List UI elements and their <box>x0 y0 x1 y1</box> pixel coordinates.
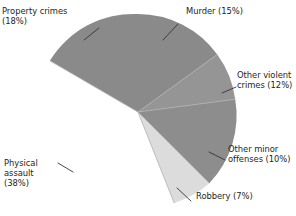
pie-slice-property-crimes[interactable] <box>50 14 138 112</box>
slice-label-murder: Murder (15%) <box>186 6 290 16</box>
slice-label-other-violent-crimes: Other violent crimes (12%) <box>237 70 295 90</box>
slice-label-other-minor-offenses: Other minor offenses (10%) <box>228 144 294 164</box>
slice-label-robbery: Robbery (7%) <box>196 191 292 201</box>
slice-label-property-crimes: Property crimes (18%) <box>2 6 94 26</box>
pie-chart: Property crimes (18%) Murder (15%) Other… <box>0 0 296 216</box>
slice-label-physical-assault: Physical assault (38%) <box>4 158 70 189</box>
